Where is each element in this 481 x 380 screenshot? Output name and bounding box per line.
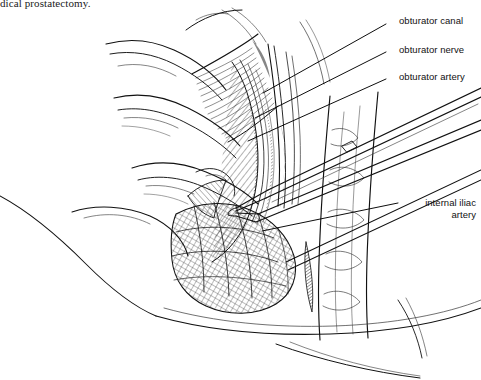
figure-caption: dical prostatectomy. [0, 0, 90, 9]
retracted-tissue-flaps [196, 8, 266, 44]
anatomy-drawing [0, 0, 481, 380]
label-obturator-nerve: obturator nerve [399, 44, 464, 55]
label-internal-iliac-artery: internal iliac artery [404, 197, 476, 220]
external-iliac-vessel [319, 92, 379, 340]
label-internal-iliac-line1: internal iliac [425, 197, 476, 208]
label-obturator-artery: obturator artery [399, 71, 465, 82]
leader-internal-iliac [262, 203, 398, 231]
label-obturator-canal: obturator canal [399, 15, 463, 26]
medical-illustration-figure: dical prostatectomy. [0, 0, 481, 380]
obturator-fossa-nodal-tissue [171, 202, 295, 313]
label-internal-iliac-line2: artery [451, 209, 476, 220]
